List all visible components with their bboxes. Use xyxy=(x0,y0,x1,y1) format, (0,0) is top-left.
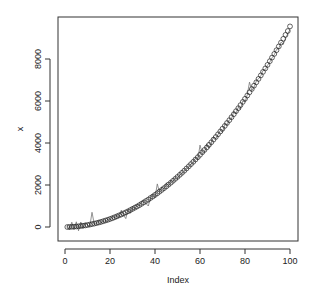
x-tick-label: 60 xyxy=(195,256,205,266)
x-tick-label: 80 xyxy=(240,256,250,266)
y-tick-label: 4000 xyxy=(33,133,43,153)
x-tick-label: 20 xyxy=(105,256,115,266)
y-tick-label: 8000 xyxy=(33,49,43,69)
y-tick-label: 6000 xyxy=(33,91,43,111)
x-tick-label: 40 xyxy=(150,256,160,266)
chart: 020406080100 02000400060008000 Index x xyxy=(0,0,332,295)
x-tick-label: 0 xyxy=(62,256,67,266)
y-tick-label: 2000 xyxy=(33,175,43,195)
x-tick-label: 100 xyxy=(282,256,297,266)
y-tick-label: 0 xyxy=(33,224,43,229)
x-axis-title: Index xyxy=(167,275,190,285)
y-axis-title: x xyxy=(15,126,25,131)
